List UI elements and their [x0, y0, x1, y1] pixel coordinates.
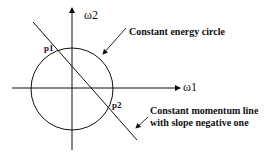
diagram-graphics [0, 0, 270, 160]
line-pointer-arrow [136, 117, 148, 128]
point-p1-label: p1 [44, 44, 54, 53]
energy-circle-annotation: Constant energy circle [129, 27, 225, 37]
point-p2-label: p2 [112, 101, 122, 110]
x-axis-label: ω1 [183, 81, 197, 93]
circle-pointer-arrow [103, 28, 126, 54]
momentum-line-annotation-2: with slope negative one [150, 118, 249, 128]
momentum-line-annotation-1: Constant momentum line [150, 106, 258, 116]
phase-diagram: ω2 ω1 p1 p2 Constant energy circle Const… [0, 0, 270, 160]
y-axis-label: ω2 [84, 9, 98, 21]
